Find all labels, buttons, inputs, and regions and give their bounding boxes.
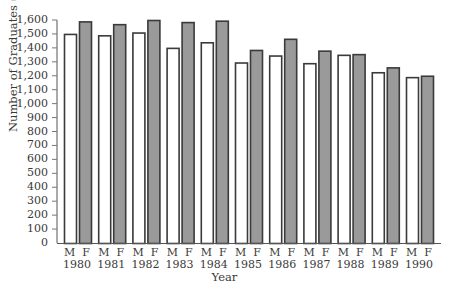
bar-f-1988: [353, 55, 365, 244]
y-tick-label: 1,100: [8, 84, 48, 96]
bar-f-1982: [148, 21, 160, 244]
bar-m-1990: [407, 78, 419, 244]
bar-m-1988: [338, 55, 350, 243]
bar-f-1983: [182, 23, 194, 244]
y-tick-label: 600: [8, 153, 48, 165]
y-tick-label: 1,000: [8, 98, 48, 110]
y-tick-label: 300: [8, 195, 48, 207]
bar-m-1987: [304, 64, 316, 244]
bar-f-1986: [285, 39, 297, 243]
y-tick-label: 1,400: [8, 42, 48, 54]
bar-chart: Number of Graduates (in thousands) 01002…: [0, 0, 449, 295]
y-tick-label: 1,300: [8, 56, 48, 68]
bar-m-1980: [65, 34, 77, 243]
y-tick-label: 700: [8, 139, 48, 151]
bar-m-1986: [270, 56, 282, 243]
bar-m-1985: [236, 63, 248, 243]
y-tick-label: 900: [8, 112, 48, 124]
x-axis-label: Year: [0, 270, 449, 284]
bar-m-1989: [372, 73, 384, 244]
bar-f-1980: [80, 22, 92, 244]
y-tick-label: 1,200: [8, 70, 48, 82]
y-tick-label: 500: [8, 167, 48, 179]
bar-f-1981: [114, 25, 126, 244]
y-tick-label: 0: [8, 237, 48, 249]
bar-f-1985: [251, 50, 263, 243]
bar-m-1983: [167, 48, 179, 243]
bar-f-1989: [387, 68, 399, 244]
bar-f-1990: [422, 76, 434, 243]
bar-f-1984: [216, 21, 228, 243]
y-tick-label: 1,500: [8, 28, 48, 40]
bar-m-1982: [133, 33, 145, 243]
y-tick-label: 100: [8, 223, 48, 235]
bar-m-1984: [201, 43, 213, 244]
y-tick-label: 200: [8, 209, 48, 221]
y-tick-label: 1,600: [8, 14, 48, 26]
bar-f-1987: [319, 51, 331, 243]
bar-m-1981: [99, 36, 111, 244]
y-tick-label: 800: [8, 126, 48, 138]
y-tick-label: 400: [8, 181, 48, 193]
